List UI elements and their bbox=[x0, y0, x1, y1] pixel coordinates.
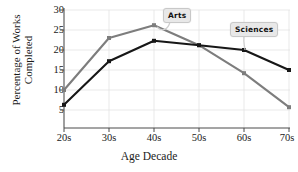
x-tick-50s: 50s bbox=[184, 132, 214, 143]
callout-sciences: Sciences bbox=[230, 22, 278, 37]
y-axis-spine bbox=[60, 8, 64, 128]
x-tick-40s: 40s bbox=[139, 132, 169, 143]
callout-arts: Arts bbox=[163, 8, 191, 23]
x-tick-20s: 20s bbox=[49, 132, 79, 143]
line-chart: Percentage of Works Completed 30 25 20 1… bbox=[0, 0, 298, 172]
x-axis-title: Age Decade bbox=[0, 150, 298, 162]
x-tick-60s: 60s bbox=[229, 132, 259, 143]
x-tick-30s: 30s bbox=[94, 132, 124, 143]
x-tick-70s: 70s bbox=[272, 132, 298, 143]
series-line-arts bbox=[64, 25, 289, 107]
